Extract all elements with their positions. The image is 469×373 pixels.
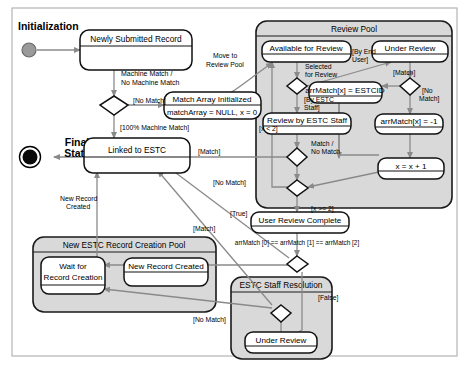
label-new-record-created-line1: New Record — [60, 195, 98, 202]
state-user-review-complete[interactable]: User Review Complete — [251, 212, 349, 233]
label-no-match-mid: [No Match] — [213, 179, 246, 187]
state-arrmatch-estcid-label: arrMatch[x] = ESTCID — [305, 86, 385, 95]
label-match-to-linked: [Match] — [198, 148, 220, 156]
state-new-record-created-label: New Record Created — [128, 262, 204, 271]
state-arrmatch-minus-one[interactable]: arrMatch[x] = -1 — [375, 114, 443, 134]
label-x-less-than-two: [x < 2] — [259, 125, 278, 133]
label-false: [False] — [318, 294, 339, 302]
state-linked-to-estc-label: Linked to ESTC — [108, 145, 166, 155]
label-100-machine-match: [100% Machine Match] — [120, 124, 189, 132]
record-creation-pool-title: New ESTC Record Creation Pool — [63, 240, 186, 250]
label-no-match-top: [No Match] — [133, 97, 166, 105]
label-by-end-user-line2: User] — [352, 56, 368, 64]
label-move-to-line2: Review Pool — [206, 61, 244, 68]
state-under-review-pool[interactable]: Under Review — [372, 41, 448, 62]
label-machine-match-line1: Machine Match / — [121, 70, 172, 77]
state-estc-under-review[interactable]: Under Review — [245, 332, 317, 353]
state-newly-submitted-record[interactable]: Newly Submitted Record — [80, 30, 192, 70]
state-match-array-initialized-body: matchArray = NULL, x = 0 — [167, 108, 258, 117]
state-available-for-review-label: Available for Review — [269, 44, 342, 53]
label-match-no-match-line2: No Match — [311, 148, 340, 155]
label-match-no-match-line1: Match / — [311, 140, 333, 147]
state-user-review-complete-label: User Review Complete — [259, 216, 342, 225]
label-by-end-user-line1: [By End — [352, 48, 376, 56]
state-available-for-review[interactable]: Available for Review — [262, 41, 351, 62]
label-no-match-right-line1: [No — [422, 87, 433, 95]
state-wait-for-record-creation-line1: Wait for — [59, 262, 87, 271]
state-arrmatch-minus-one-label: arrMatch[x] = -1 — [381, 117, 438, 126]
initial-pseudostate — [22, 43, 36, 57]
state-wait-for-record-creation-line2: Record Creation — [44, 273, 103, 282]
state-review-by-estc-staff-label: Review by ESTC Staff — [267, 116, 348, 125]
label-x-gte-two: [x >= 2] — [311, 205, 334, 213]
state-under-review-pool-label: Under Review — [385, 44, 436, 53]
review-pool-title: Review Pool — [331, 24, 377, 34]
state-match-array-initialized-title: Match Array Initialized — [172, 95, 251, 104]
initialization-label: Initialization — [18, 20, 79, 32]
label-selected-for-review-line1: Selected — [305, 63, 332, 70]
state-match-array-initialized[interactable]: Match Array Initialized matchArray = NUL… — [164, 92, 261, 119]
label-match-upper-right: [Match] — [393, 69, 415, 77]
label-by-estc-staff-line2: Staff] — [304, 104, 320, 112]
final-state — [20, 147, 41, 168]
state-x-increment-label: x = x + 1 — [395, 162, 427, 171]
label-by-estc-staff-line1: [By ESTC — [304, 96, 334, 104]
label-no-match-right-line2: Match] — [419, 95, 440, 103]
label-arrmatch-equality: arrMatch [0] == arrMatch [1] == arrMatch… — [235, 239, 360, 247]
label-no-match-bottom: [No Match] — [193, 316, 226, 324]
diagram-canvas: Review Pool New ESTC Record Creation Poo… — [0, 0, 469, 373]
state-wait-for-record-creation[interactable]: Wait for Record Creation — [41, 257, 105, 294]
label-true: [True] — [230, 210, 248, 218]
label-new-record-created-line2: Created — [66, 203, 90, 210]
label-selected-for-review-line2: for Review — [305, 71, 337, 78]
state-newly-submitted-record-label: Newly Submitted Record — [90, 34, 182, 44]
state-linked-to-estc[interactable]: Linked to ESTC — [84, 138, 190, 173]
label-move-to-line1: Move to — [213, 52, 237, 59]
label-match-to-pool: [Match] — [193, 225, 215, 233]
label-machine-match-line2: No Machine Match — [121, 79, 179, 86]
state-machine-diagram: Review Pool New ESTC Record Creation Poo… — [0, 0, 469, 373]
state-new-record-created[interactable]: New Record Created — [124, 258, 208, 286]
state-x-increment[interactable]: x = x + 1 — [378, 158, 444, 179]
state-estc-under-review-label: Under Review — [256, 336, 307, 345]
